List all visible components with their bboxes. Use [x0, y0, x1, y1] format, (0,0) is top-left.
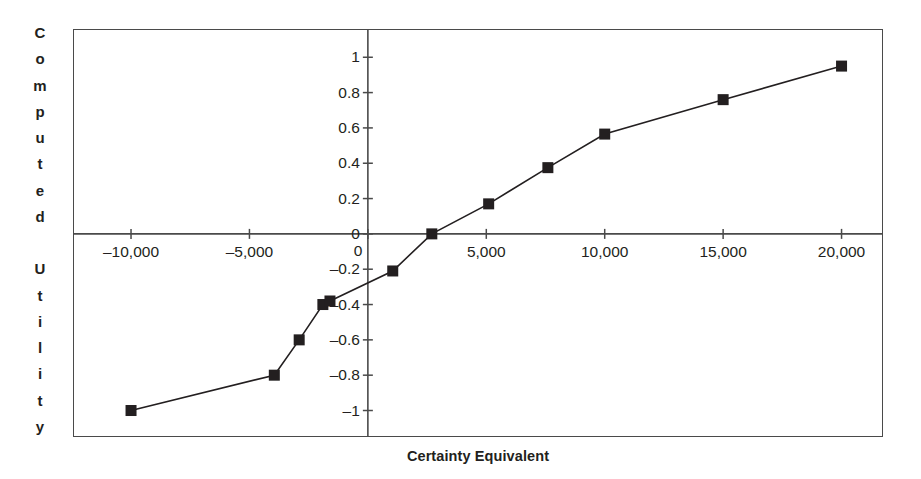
y-tick-label: –0.4 — [306, 296, 360, 314]
y-tick-label: 1 — [306, 48, 360, 66]
y-tick-label: –0.2 — [306, 260, 360, 278]
y-axis-title-letter: U — [20, 261, 60, 287]
plot-frame — [73, 29, 883, 437]
x-tick-label: 15,000 — [699, 243, 746, 261]
y-axis-title-letter: i — [20, 366, 60, 392]
x-tick-label: –5,000 — [226, 243, 273, 261]
y-tick-label: 0.4 — [306, 154, 360, 172]
y-tick-label: –0.8 — [306, 366, 360, 384]
y-axis-title-letter: i — [20, 314, 60, 340]
y-tick-label: 0.8 — [306, 84, 360, 102]
x-tick-label: –10,000 — [103, 243, 159, 261]
y-tick-label: 0 — [306, 225, 360, 243]
x-tick-label: 10,000 — [581, 243, 628, 261]
x-tick-label: 5,000 — [467, 243, 506, 261]
x-tick-label: 20,000 — [818, 243, 865, 261]
y-tick-label: 0.6 — [306, 119, 360, 137]
y-axis-title-letter: t — [20, 393, 60, 419]
x-axis-title: Certainty Equivalent — [73, 448, 883, 464]
x-axis-origin-label: 0 — [354, 242, 363, 260]
y-axis-title-gap — [20, 235, 60, 261]
y-axis-title-letter: e — [20, 183, 60, 209]
y-tick-label: –0.6 — [306, 331, 360, 349]
y-axis-title: ComputedUtility — [20, 25, 60, 445]
y-tick-label: –1 — [306, 402, 360, 420]
y-axis-title-letter: l — [20, 340, 60, 366]
chart-figure: ComputedUtility –10,000–5,00005,00010,00… — [0, 0, 921, 479]
y-axis-title-letter: C — [20, 25, 60, 51]
y-axis-title-letter: t — [20, 288, 60, 314]
y-axis-title-letter: o — [20, 51, 60, 77]
y-axis-title-letter: t — [20, 156, 60, 182]
y-axis-title-letter: d — [20, 209, 60, 235]
y-tick-label: 0.2 — [306, 190, 360, 208]
y-axis-title-letter: p — [20, 104, 60, 130]
y-axis-title-letter: m — [20, 78, 60, 104]
y-axis-title-letter: y — [20, 419, 60, 445]
y-axis-title-letter: u — [20, 130, 60, 156]
